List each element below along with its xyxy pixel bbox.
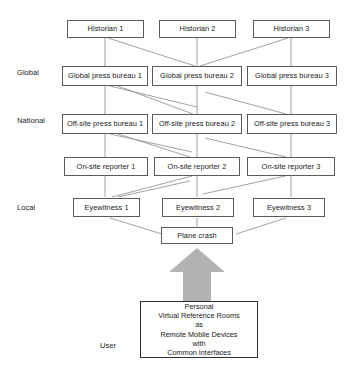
wire-g1-n2a bbox=[110, 86, 197, 107]
upward-arrow bbox=[169, 248, 225, 302]
tier-label-local: Local bbox=[17, 204, 35, 212]
node-global-press-bureau-1[interactable]: Global press bureau 1 bbox=[62, 66, 148, 86]
user-box-line-5: with bbox=[193, 339, 206, 348]
node-plane-crash[interactable]: Plane crash bbox=[161, 227, 233, 244]
user-box-line-4: Remote Mobile Devices bbox=[160, 330, 237, 339]
node-global-press-bureau-3[interactable]: Global press bureau 3 bbox=[247, 66, 337, 86]
wire-crash-e3 bbox=[236, 218, 286, 234]
node-offsite-press-bureau-3[interactable]: Off-site press bureau 3 bbox=[247, 114, 337, 134]
user-box-line-3: as bbox=[195, 320, 203, 329]
user-box-line-2: Virtual Reference Rooms bbox=[158, 311, 239, 320]
wire-h3-g2 bbox=[200, 38, 288, 66]
node-historian-1[interactable]: Historian 1 bbox=[67, 20, 144, 38]
user-box-line-6: Common Interfaces bbox=[167, 348, 231, 357]
tier-label-user: User bbox=[100, 342, 116, 350]
node-eyewitness-2[interactable]: Eyewitness 2 bbox=[162, 198, 234, 217]
wire-h1-g2 bbox=[108, 38, 195, 66]
node-historian-3[interactable]: Historian 3 bbox=[253, 20, 330, 38]
wire-n1-r2a bbox=[110, 134, 192, 152]
wire-g1-n2b bbox=[118, 86, 193, 114]
wire-e1-r2a bbox=[112, 176, 192, 197]
node-eyewitness-3[interactable]: Eyewitness 3 bbox=[253, 198, 325, 217]
information-flow-diagram: Global National Local User Historian 1 H… bbox=[0, 0, 348, 380]
node-offsite-press-bureau-2[interactable]: Off-site press bureau 2 bbox=[152, 114, 242, 134]
node-global-press-bureau-2[interactable]: Global press bureau 2 bbox=[152, 66, 242, 86]
wire-e1-r2b bbox=[118, 181, 190, 197]
node-onsite-reporter-1[interactable]: On-site reporter 1 bbox=[64, 157, 148, 176]
tier-label-national: National bbox=[17, 117, 45, 125]
wire-n2-r3 bbox=[205, 138, 286, 157]
node-onsite-reporter-3[interactable]: On-site reporter 3 bbox=[247, 157, 335, 176]
node-onsite-reporter-2[interactable]: On-site reporter 2 bbox=[154, 157, 240, 176]
wire-n1-r2b bbox=[118, 134, 190, 157]
node-historian-2[interactable]: Historian 2 bbox=[159, 20, 236, 38]
wire-e2-r3 bbox=[203, 176, 285, 194]
wire-crash-e1 bbox=[110, 218, 162, 234]
user-box-line-1: Personal bbox=[185, 302, 214, 311]
tier-label-global: Global bbox=[17, 69, 39, 77]
node-eyewitness-1[interactable]: Eyewitness 1 bbox=[73, 198, 140, 217]
user-virtual-reference-rooms-box[interactable]: Personal Virtual Reference Rooms as Remo… bbox=[140, 301, 258, 358]
wire-g2-n3 bbox=[205, 92, 286, 114]
node-offsite-press-bureau-1[interactable]: Off-site press bureau 1 bbox=[62, 114, 148, 134]
